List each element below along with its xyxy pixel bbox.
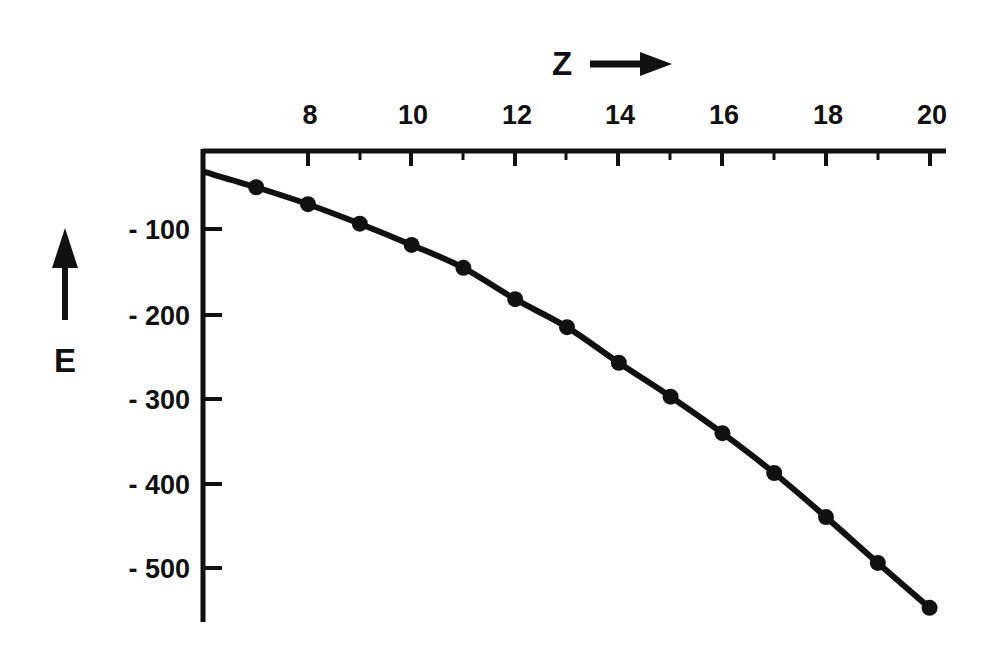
y-axis-title: E xyxy=(54,342,76,379)
data-point xyxy=(922,600,938,616)
data-point xyxy=(507,291,523,307)
chart-canvas: Z xyxy=(0,0,1002,646)
data-point xyxy=(352,216,368,232)
data-point xyxy=(714,425,730,441)
data-point xyxy=(818,509,834,525)
y-tick-label: - 300 xyxy=(128,385,190,415)
x-axis-arrow-icon xyxy=(590,52,672,76)
x-axis: 8 10 12 14 16 18 20 xyxy=(203,100,947,166)
y-axis: - 100 - 200 - 300 - 400 - 500 xyxy=(128,149,222,622)
data-point xyxy=(300,196,316,212)
y-axis-ticks xyxy=(203,229,222,568)
x-axis-title: Z xyxy=(552,45,572,82)
x-tick-label: 14 xyxy=(605,100,635,130)
y-tick-label: - 100 xyxy=(128,215,190,245)
data-point xyxy=(766,465,782,481)
y-tick-label: - 500 xyxy=(128,554,190,584)
x-tick-label: 20 xyxy=(917,100,947,130)
y-tick-label: - 200 xyxy=(128,301,190,331)
y-axis-tick-labels: - 100 - 200 - 300 - 400 - 500 xyxy=(128,215,190,584)
data-point xyxy=(611,355,627,371)
data-point xyxy=(455,260,471,276)
y-axis-arrow-icon xyxy=(52,228,78,320)
x-tick-label: 10 xyxy=(398,100,428,130)
data-series-markers xyxy=(248,179,937,616)
x-tick-label: 18 xyxy=(813,100,843,130)
data-point xyxy=(559,319,575,335)
figure-container: Z xyxy=(0,0,1002,646)
data-point xyxy=(248,179,264,195)
x-tick-label: 16 xyxy=(709,100,739,130)
x-tick-label: 8 xyxy=(302,100,317,130)
y-axis-title-group: E xyxy=(52,228,78,379)
y-tick-label: - 400 xyxy=(128,470,190,500)
data-point xyxy=(404,237,420,253)
data-series-line xyxy=(204,172,929,608)
data-point xyxy=(663,389,679,405)
data-point xyxy=(870,555,886,571)
x-tick-label: 12 xyxy=(502,100,532,130)
x-axis-tick-labels: 8 10 12 14 16 18 20 xyxy=(302,100,947,130)
x-axis-title-group: Z xyxy=(552,45,672,82)
